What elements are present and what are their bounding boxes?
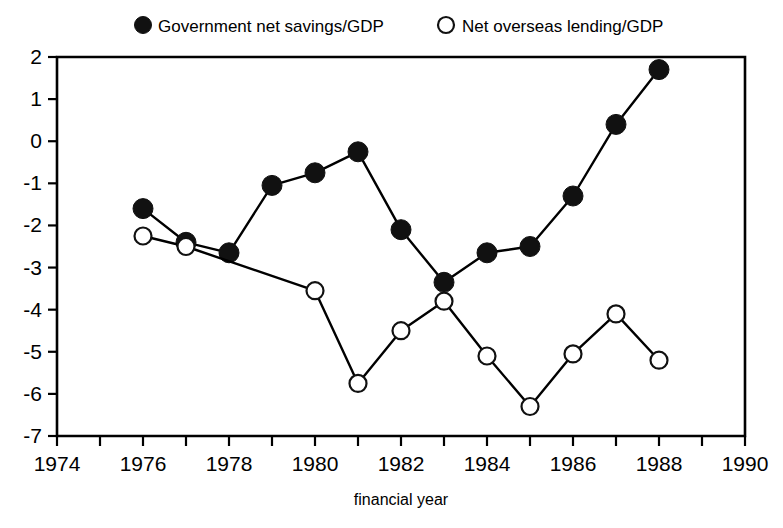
chart-figure: Government net savings/GDP Net overseas …	[0, 0, 783, 528]
plot-border	[57, 57, 745, 436]
x-tick-label: 1984	[464, 452, 511, 475]
data-point-filled-circle	[348, 142, 368, 162]
data-point-filled-circle	[477, 243, 497, 263]
legend-label-government-net-savings: Government net savings/GDP	[158, 17, 384, 36]
data-point-filled-circle	[649, 60, 669, 80]
data-point-filled-circle	[305, 163, 325, 183]
data-point-open-circle	[135, 228, 152, 245]
chart-legend: Government net savings/GDP Net overseas …	[135, 17, 664, 37]
x-tick-label: 1990	[722, 452, 769, 475]
y-tick-label: -4	[23, 298, 42, 321]
x-tick-label: 1988	[636, 452, 683, 475]
y-tick-label: -2	[23, 213, 42, 236]
chart-canvas: Government net savings/GDP Net overseas …	[0, 0, 783, 528]
x-tick-label: 1978	[206, 452, 253, 475]
x-tick-label: 1986	[550, 452, 597, 475]
x-axis-title: financial year	[354, 491, 449, 508]
data-point-open-circle	[350, 375, 367, 392]
data-point-open-circle	[522, 398, 539, 415]
x-tick-label: 1974	[34, 452, 81, 475]
series-2	[135, 228, 668, 416]
y-tick-label: -7	[23, 424, 42, 447]
x-axis: 197419761978198019821984198619881990	[34, 436, 769, 475]
series-layer	[133, 60, 669, 415]
x-tick-label: 1982	[378, 452, 425, 475]
data-point-open-circle	[608, 305, 625, 322]
data-point-filled-circle	[391, 220, 411, 240]
legend-label-net-overseas-lending: Net overseas lending/GDP	[462, 17, 663, 36]
data-point-filled-circle	[133, 199, 153, 219]
y-tick-label: -1	[23, 171, 42, 194]
y-tick-label: -3	[23, 256, 42, 279]
legend-marker-open-circle	[438, 17, 454, 33]
data-point-open-circle	[178, 238, 195, 255]
y-tick-label: -5	[23, 340, 42, 363]
y-tick-label: -6	[23, 382, 42, 405]
y-tick-label: 0	[30, 129, 42, 152]
x-tick-label: 1980	[292, 452, 339, 475]
data-point-filled-circle	[434, 272, 454, 292]
data-point-filled-circle	[520, 237, 540, 257]
data-point-open-circle	[565, 345, 582, 362]
series-1	[133, 60, 669, 293]
data-point-filled-circle	[262, 175, 282, 195]
plot-frame	[57, 57, 745, 436]
data-point-open-circle	[393, 322, 410, 339]
data-point-open-circle	[651, 352, 668, 369]
data-point-open-circle	[436, 293, 453, 310]
y-tick-label: 1	[30, 87, 42, 110]
legend-marker-filled-circle	[135, 17, 152, 34]
data-point-open-circle	[307, 282, 324, 299]
x-tick-label: 1976	[120, 452, 167, 475]
data-point-filled-circle	[606, 114, 626, 134]
data-point-filled-circle	[563, 186, 583, 206]
y-tick-label: 2	[30, 45, 42, 68]
data-point-open-circle	[479, 348, 496, 365]
y-axis: 210-1-2-3-4-5-6-7	[23, 45, 57, 447]
